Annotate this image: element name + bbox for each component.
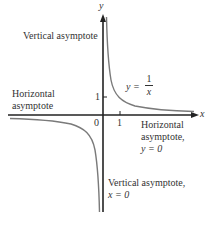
x-axis-label: x — [200, 108, 204, 120]
function-label-denominator: x — [145, 87, 153, 97]
y-axis-arrow-icon — [100, 14, 106, 22]
horizontal-asymptote-label-right-1: Horizontal — [141, 119, 184, 131]
x-tick-label: 1 — [117, 117, 122, 129]
y-tick-label: 1 — [95, 91, 100, 103]
horizontal-asymptote-label-left-2: asymptote — [12, 100, 53, 112]
hyperbola-branch-positive — [107, 17, 195, 112]
hyperbola-branch-negative — [10, 119, 100, 213]
x-axis-arrow-icon — [191, 112, 199, 118]
function-label-numerator: 1 — [145, 74, 153, 84]
horizontal-asymptote-label-right-2: asymptote, — [141, 131, 185, 143]
function-label-lhs: y = — [126, 81, 140, 93]
y-axis-label: y — [99, 0, 103, 12]
horizontal-asymptote-label-left-1: Horizontal — [12, 88, 55, 100]
vertical-asymptote-label-top: Vertical asymptote — [23, 30, 98, 42]
vertical-asymptote-label-bottom-1: Vertical asymptote, — [108, 177, 185, 189]
origin-label: 0 — [94, 117, 99, 129]
horizontal-asymptote-label-right-3: y = 0 — [141, 143, 162, 155]
vertical-asymptote-label-bottom-2: x = 0 — [108, 189, 129, 201]
